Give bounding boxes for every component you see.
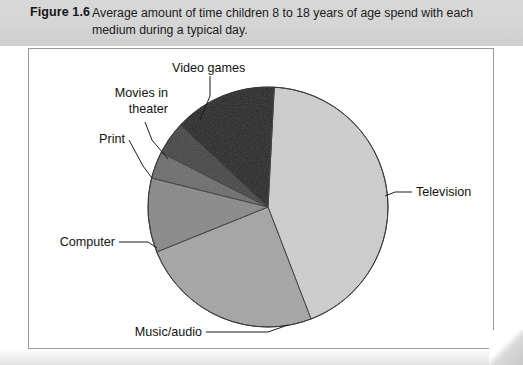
- leader-line-computer: [119, 242, 157, 248]
- leader-line-print: [129, 140, 152, 178]
- pie-slices-group: [148, 87, 388, 327]
- label-movies-in-theater-line1: Movies in: [115, 86, 168, 100]
- leader-line-television: [385, 192, 412, 196]
- figure-page: Figure 1.6Average amount of time childre…: [0, 0, 523, 365]
- label-video-games: Video games: [172, 61, 245, 75]
- label-print: Print: [99, 132, 125, 146]
- label-television: Television: [416, 185, 471, 199]
- page-bottom-edge: [0, 349, 523, 365]
- label-movies-in-theater-line2: theater: [129, 102, 168, 116]
- label-computer: Computer: [60, 235, 115, 249]
- pie-chart: Television Music/audio Computer Print Mo…: [0, 0, 523, 365]
- page-corner-fold: [489, 330, 523, 365]
- label-music-audio: Music/audio: [135, 325, 202, 339]
